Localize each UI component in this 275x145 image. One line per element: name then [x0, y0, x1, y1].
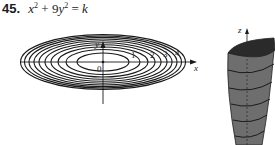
- figures: x y 0 1 2 3 4 z: [0, 0, 275, 145]
- surface-body: [228, 50, 274, 145]
- origin-dot: [102, 61, 105, 64]
- x-axis-label: x: [193, 63, 198, 73]
- origin-label: 0: [97, 64, 102, 74]
- level-label-4: 4: [175, 48, 180, 58]
- y-axis-label: y: [94, 39, 99, 49]
- surface-plot: z: [228, 25, 275, 145]
- level-label-2: 2: [150, 50, 155, 60]
- level-label-1: 1: [131, 50, 136, 60]
- z-axis-label: z: [237, 25, 242, 35]
- level-label-3: 3: [163, 49, 168, 59]
- surface-top: [228, 38, 275, 57]
- z-axis-arrow-icon: [245, 28, 249, 34]
